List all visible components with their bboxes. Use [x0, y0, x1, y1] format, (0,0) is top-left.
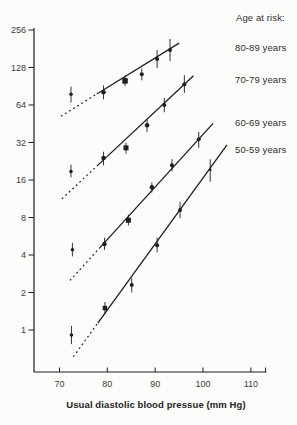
data-point: [197, 137, 201, 141]
data-point: [140, 72, 144, 76]
data-point: [155, 57, 159, 61]
y-tick-label: 128: [11, 63, 26, 73]
data-point-square: [124, 145, 129, 150]
data-point: [170, 163, 174, 167]
data-point: [155, 243, 159, 247]
y-tick-label: 4: [21, 250, 26, 260]
data-point: [168, 48, 172, 52]
data-point: [101, 156, 106, 161]
y-tick-label: 2: [21, 288, 26, 298]
data-point: [69, 170, 73, 174]
series-label-50-59: 50-59 years: [235, 145, 286, 155]
y-tick-label: 32: [16, 138, 26, 148]
trend-solid-60-69: [100, 123, 213, 248]
data-point: [150, 185, 155, 190]
data-point-square: [103, 306, 108, 311]
trend-dashed-80-89: [61, 94, 97, 116]
x-tick-label: 70: [54, 379, 64, 389]
axes: [34, 28, 267, 372]
x-axis-title: Usual diastolic blood pressue (mm Hg): [15, 399, 297, 410]
scatter-figure: 2561286432168421708090100110 Age at risk…: [0, 0, 297, 425]
data-point: [145, 123, 150, 128]
data-point: [102, 242, 107, 247]
trend-dashed-70-79: [62, 166, 97, 199]
x-tick-label: 90: [150, 379, 160, 389]
x-tick-label: 100: [196, 379, 211, 389]
x-tick-label: 80: [102, 379, 112, 389]
series-label-80-89: 80-89 years: [235, 43, 286, 53]
data-point: [182, 82, 186, 86]
data-point: [209, 169, 212, 172]
data-point-square: [122, 78, 128, 84]
y-tick-label: 1: [21, 325, 26, 335]
trend-solid-80-89: [97, 43, 179, 94]
legend-title: Age at risk:: [236, 13, 285, 23]
series-label-70-79: 70-79 years: [235, 75, 286, 85]
trend-solid-70-79: [97, 76, 194, 166]
y-tick-label: 256: [11, 25, 26, 35]
data-point: [178, 208, 182, 212]
chart-canvas: 2561286432168421708090100110: [0, 0, 297, 425]
data-point-square: [126, 218, 131, 223]
trend-dashed-50-59: [73, 323, 97, 357]
y-tick-label: 64: [16, 100, 26, 110]
trend-solid-50-59: [98, 145, 227, 323]
data-point: [130, 283, 134, 287]
data-point: [101, 90, 106, 95]
y-tick-label: 16: [16, 175, 26, 185]
data-point: [71, 248, 75, 252]
y-tick-label: 8: [21, 213, 26, 223]
series-label-60-69: 60-69 years: [235, 118, 286, 128]
data-point: [70, 333, 74, 337]
x-tick-label: 110: [244, 379, 258, 389]
trend-dashed-60-69: [70, 248, 100, 281]
data-point: [69, 93, 73, 97]
data-point: [162, 103, 166, 107]
